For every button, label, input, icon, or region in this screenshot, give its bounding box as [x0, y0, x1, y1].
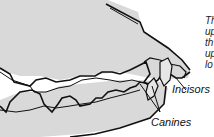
caption-line: Th [205, 15, 214, 26]
incisors-label: Incisors [172, 83, 210, 95]
caption-line: up [205, 48, 214, 59]
caption-line: up [205, 26, 214, 37]
caption-line: th [205, 37, 214, 48]
canines-label: Canines [151, 116, 191, 128]
caption-line: lo [205, 59, 214, 70]
caption-text-fragment: Th up th up lo [205, 15, 214, 70]
